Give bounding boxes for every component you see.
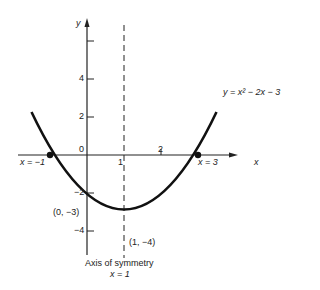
- y-intercept-label: (0, −3): [53, 208, 79, 217]
- symmetry-title: Axis of symmetry: [85, 259, 154, 268]
- root-left-label: x = −1: [20, 158, 45, 167]
- y-ticks: [87, 41, 94, 231]
- tick-label-y4: 4: [79, 74, 84, 83]
- x-axis-arrow-icon: [229, 153, 238, 158]
- equation-label: y = x² − 2x − 3: [223, 88, 280, 97]
- vertex-label: (1, −4): [129, 238, 155, 247]
- tick-label-x1: 1: [118, 158, 123, 167]
- y-axis-arrow-icon: [85, 18, 90, 27]
- x-axis-label: x: [254, 158, 259, 167]
- tick-label-yneg2: −2: [74, 188, 84, 197]
- tick-label-yneg4: −4: [74, 226, 84, 235]
- origin-label: 0: [79, 145, 84, 154]
- y-axis-label: y: [76, 19, 81, 28]
- tick-label-y2: 2: [79, 112, 84, 121]
- root-right-label: x = 3: [198, 158, 218, 167]
- tick-label-x2: 2: [158, 145, 163, 154]
- root-left-point: [47, 152, 53, 158]
- symmetry-equation: x = 1: [110, 270, 130, 279]
